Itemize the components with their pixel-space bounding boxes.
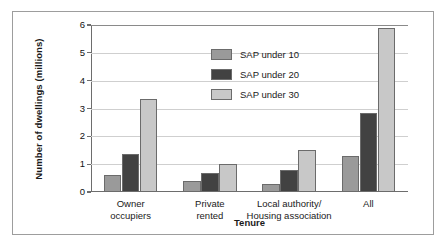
- bar: [378, 28, 396, 192]
- y-tick-label: 0: [80, 187, 85, 197]
- legend-label: SAP under 10: [240, 50, 299, 60]
- x-category-label: All: [363, 198, 374, 210]
- bar: [122, 154, 140, 192]
- x-category-label-line: All: [363, 198, 374, 210]
- y-tick-label: 2: [80, 132, 85, 142]
- plot-area: 0123456 OwneroccupiersPrivaterentedLocal…: [91, 25, 408, 192]
- legend-swatch: [211, 69, 232, 80]
- legend-item: SAP under 10: [211, 47, 299, 62]
- y-axis-title-text: Number of dwellings (millions): [33, 38, 44, 179]
- bar-group: [329, 25, 408, 192]
- y-tick-label: 1: [80, 159, 85, 169]
- y-tick-label: 4: [80, 76, 85, 86]
- bar: [140, 99, 158, 192]
- chart-figure: Number of dwellings (millions) 0123456 O…: [12, 11, 434, 235]
- y-tick-label: 6: [80, 20, 85, 30]
- legend-item: SAP under 20: [211, 67, 299, 82]
- bar: [262, 184, 280, 192]
- chart-legend: SAP under 10SAP under 20SAP under 30: [211, 47, 299, 107]
- bar: [280, 170, 298, 192]
- y-tick-label: 5: [80, 48, 85, 58]
- bar: [298, 150, 316, 192]
- x-category-label-line: Local authority/: [247, 198, 332, 210]
- legend-label: SAP under 30: [240, 90, 299, 100]
- bar-group: [91, 25, 170, 192]
- x-category-label-line: Private: [195, 198, 225, 210]
- bar: [104, 175, 122, 192]
- bar: [183, 181, 201, 192]
- legend-item: SAP under 30: [211, 87, 299, 102]
- y-tick-label: 3: [80, 104, 85, 114]
- legend-label: SAP under 20: [240, 70, 299, 80]
- x-axis-title: Tenure: [91, 217, 408, 228]
- y-axis-title: Number of dwellings (millions): [31, 25, 45, 192]
- bar: [201, 173, 219, 192]
- legend-swatch: [211, 89, 232, 100]
- x-category-label-line: Owner: [110, 198, 151, 210]
- bar: [219, 164, 237, 192]
- bar: [360, 113, 378, 192]
- legend-swatch: [211, 49, 232, 60]
- bar: [342, 156, 360, 192]
